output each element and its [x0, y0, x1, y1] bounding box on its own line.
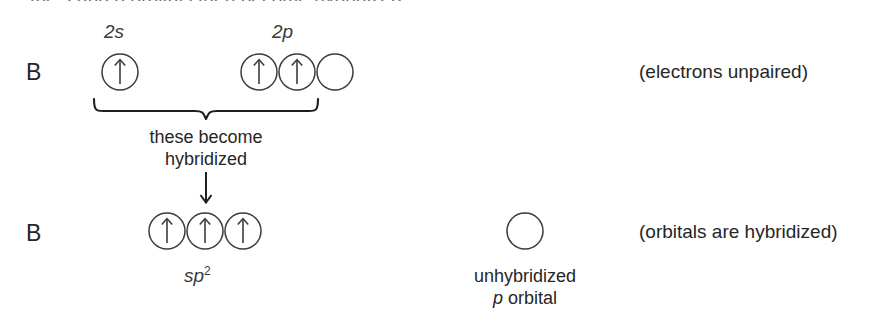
unhybridized-caption-line2: p orbital [435, 287, 615, 309]
electron-arrow-up [162, 219, 172, 243]
electron-arrow-up [115, 60, 125, 84]
orbital-2p-2 [278, 53, 316, 91]
orbital-sp2-1 [148, 212, 186, 250]
orbital-sp2-3 [224, 212, 262, 250]
brace-caption: these become hybridized [106, 126, 306, 170]
hybrid-label-sp2: sp2 [184, 266, 211, 285]
orbital-group-2s [101, 53, 139, 91]
brace-caption-line1: these become [106, 126, 306, 148]
electron-arrow-up [238, 219, 248, 243]
hybrid-label-superscript: 2 [204, 264, 211, 278]
brace-path [94, 99, 318, 119]
hybridization-brace [90, 98, 322, 120]
annotation-electrons-unpaired: (electrons unpaired) [639, 62, 808, 81]
subshell-label-2p: 2p [272, 22, 293, 41]
orbital-group-unhybridized-p [506, 212, 544, 250]
electron-arrow-up [254, 60, 264, 84]
atom-label-row2: B [26, 222, 42, 245]
unhybridized-caption-rest: orbital [503, 288, 557, 308]
orbital-2p-1 [240, 53, 278, 91]
unhybridized-caption-p-italic: p [493, 288, 503, 308]
top-caption-text: the s and p orbitals then become hybridi… [30, 0, 889, 1]
orbital-circle [317, 54, 353, 90]
annotation-orbitals-hybridized: (orbitals are hybridized) [639, 222, 838, 241]
orbital-group-2p [240, 53, 354, 91]
unhybridized-caption-line1: unhybridized [435, 265, 615, 287]
orbital-circle [507, 213, 543, 249]
atom-label-row1: B [26, 61, 42, 84]
electron-arrow-up [292, 60, 302, 84]
orbital-hybridization-diagram: the s and p orbitals then become hybridi… [0, 0, 889, 331]
unhybridized-p-caption: unhybridized p orbital [435, 265, 615, 309]
orbital-group-sp2 [148, 212, 262, 250]
electron-arrow-up [200, 219, 210, 243]
brace-caption-line2: hybridized [106, 148, 306, 170]
orbital-2p-3-empty [316, 53, 354, 91]
orbital-2s-1 [101, 53, 139, 91]
subshell-label-2s: 2s [104, 22, 124, 41]
down-arrow-icon [193, 172, 219, 210]
orbital-p-unhybridized-empty [506, 212, 544, 250]
hybrid-label-base: sp [184, 265, 204, 286]
orbital-sp2-2 [186, 212, 224, 250]
